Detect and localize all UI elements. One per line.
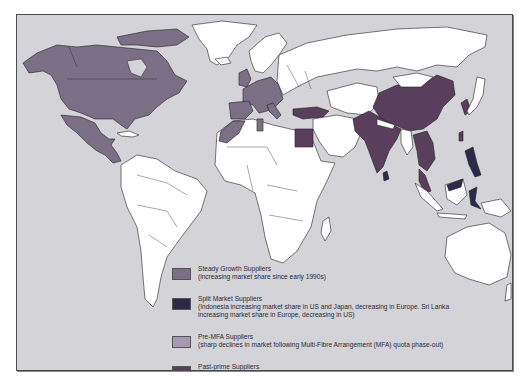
- legend-title: Split Market Suppliers: [198, 295, 449, 303]
- region-caribbean: [117, 131, 139, 137]
- region-mexico-central-america: [61, 115, 121, 163]
- region-myanmar: [401, 129, 413, 155]
- legend-item-steady-growth: Steady Growth Suppliers (increasing mark…: [172, 265, 507, 287]
- legend-description: (sharp declines in market following Mult…: [198, 341, 443, 349]
- region-sri-lanka: [383, 171, 389, 181]
- region-canada-arctic: [117, 29, 189, 47]
- region-new-guinea: [481, 199, 511, 217]
- legend-item-pre-mfa: Pre-MFA Suppliers (sharp declines in mar…: [172, 333, 507, 355]
- legend-title: Steady Growth Suppliers: [198, 265, 326, 273]
- map-legend: Steady Growth Suppliers (increasing mark…: [172, 265, 507, 371]
- region-sulawesi: [469, 187, 481, 209]
- past-prime-swatch-icon: [172, 366, 191, 371]
- region-central-asia: [327, 83, 379, 115]
- region-italy: [267, 103, 281, 119]
- legend-description: (increasing market share since early 199…: [198, 273, 326, 281]
- region-madagascar: [321, 217, 331, 241]
- legend-title: Pre-MFA Suppliers: [198, 333, 443, 341]
- legend-description: (Indonesia increasing market share in US…: [198, 303, 449, 311]
- pre-mfa-swatch-icon: [172, 336, 191, 348]
- region-southeast-asia-mainland: [413, 131, 435, 171]
- region-uk-ireland: [239, 69, 251, 87]
- region-philippines: [465, 147, 481, 177]
- region-iberia: [229, 101, 253, 119]
- region-russia-eastern-europe: [277, 27, 487, 95]
- region-north-america: [23, 45, 187, 129]
- legend-item-past-prime: Past-prime Suppliers (decreasing market …: [172, 363, 507, 371]
- split-market-swatch-icon: [172, 298, 191, 310]
- world-map-frame: Steady Growth Suppliers (increasing mark…: [16, 14, 513, 371]
- region-egypt: [295, 129, 313, 147]
- steady-growth-swatch-icon: [172, 268, 191, 280]
- region-java: [437, 213, 467, 219]
- region-japan: [467, 77, 485, 115]
- region-tunisia: [257, 119, 263, 131]
- legend-description-continued: increasing market share in Europe, decre…: [198, 311, 449, 319]
- region-taiwan: [459, 131, 463, 141]
- legend-title: Past-prime Suppliers: [198, 363, 328, 371]
- region-africa: [215, 119, 335, 263]
- legend-item-split-market: Split Market Suppliers (Indonesia increa…: [172, 295, 507, 325]
